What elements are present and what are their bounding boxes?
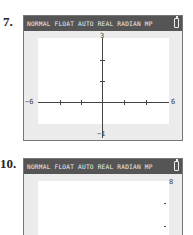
battery-icon: [174, 161, 179, 171]
y-axis: [102, 38, 103, 138]
y-tick: [100, 60, 105, 61]
x-tick: [81, 100, 82, 105]
y-tick: [164, 203, 166, 204]
calculator-screen-10: NORMAL FLOAT AUTO REAL RADIAN MP 8: [23, 158, 183, 235]
x-tick: [60, 100, 61, 105]
status-bar: NORMAL FLOAT AUTO REAL RADIAN MP: [24, 16, 182, 31]
xmin-label: −6: [25, 99, 33, 106]
problem-number-7: 7.: [3, 14, 13, 30]
ymin-label: −1: [97, 131, 105, 138]
graph-area: [38, 38, 169, 124]
x-tick: [146, 100, 147, 105]
ymax-label: 8: [169, 179, 173, 186]
status-bar-text: NORMAL FLOAT AUTO REAL RADIAN MP: [27, 20, 153, 27]
x-tick: [124, 100, 125, 105]
ymax-label: 3: [100, 33, 104, 40]
y-tick: [100, 81, 105, 82]
graph-area: [38, 181, 169, 235]
y-tick: [164, 226, 166, 227]
xmax-label: 6: [171, 99, 175, 106]
battery-icon: [174, 18, 179, 28]
x-axis: [38, 102, 169, 103]
status-bar-text: NORMAL FLOAT AUTO REAL RADIAN MP: [27, 163, 153, 170]
calculator-screen-7: NORMAL FLOAT AUTO REAL RADIAN MP −6 6 3 …: [23, 15, 183, 141]
problem-number-10: 10.: [0, 156, 16, 172]
status-bar: NORMAL FLOAT AUTO REAL RADIAN MP: [24, 159, 182, 174]
